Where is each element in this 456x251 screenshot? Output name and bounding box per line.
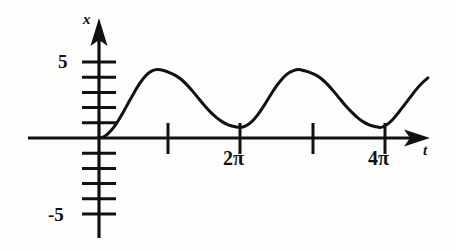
y-axis-tick-label-neg5: -5 [48, 205, 64, 224]
data-curve [99, 70, 428, 138]
plot-canvas [0, 0, 456, 251]
x-axis-tick-label-4pi: 4π [368, 148, 389, 168]
y-axis-tick-label-5: 5 [58, 52, 68, 71]
x-axis-name-label: x [83, 12, 91, 27]
x-axis-tick-label-2pi: 2π [223, 148, 244, 168]
t-axis-name-label: t [423, 143, 427, 158]
graph-figure: 5 -5 2π 4π x t [0, 0, 456, 251]
